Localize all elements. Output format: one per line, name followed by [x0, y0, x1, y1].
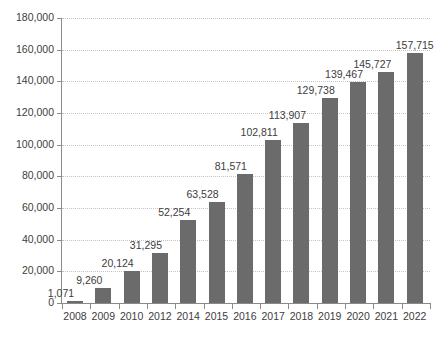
y-axis-tick [57, 208, 62, 209]
x-axis-tick [62, 304, 63, 309]
x-axis-tick [430, 304, 431, 309]
bar-value-label: 113,907 [263, 110, 311, 121]
y-axis-tick-label: 180,000 [16, 12, 54, 23]
y-axis-line [61, 18, 62, 304]
bar-value-label: 63,528 [179, 189, 227, 200]
x-axis-line [61, 303, 431, 304]
gridline [62, 50, 430, 51]
gridline [62, 81, 430, 82]
bar-value-label: 20,124 [94, 258, 142, 269]
bar [265, 140, 281, 303]
bar [209, 202, 225, 303]
y-axis-tick-label: 40,000 [22, 234, 54, 245]
y-axis-tick [57, 240, 62, 241]
bar-value-label: 52,254 [150, 207, 198, 218]
y-axis-tick [57, 176, 62, 177]
bar [152, 253, 168, 303]
bar-chart: 020,00040,00060,00080,000100,000120,0001… [0, 0, 447, 339]
y-axis-tick [57, 81, 62, 82]
bar [378, 72, 394, 303]
y-axis-tick-label: 20,000 [22, 265, 54, 276]
x-axis-tick [90, 304, 91, 309]
bar-value-label: 157,715 [391, 40, 439, 51]
gridline [62, 18, 430, 19]
y-axis-tick-label: 80,000 [22, 170, 54, 181]
bar-value-label: 81,571 [207, 161, 255, 172]
x-axis-tick [373, 304, 374, 309]
bar [407, 53, 423, 303]
y-axis-tick-label: 140,000 [16, 75, 54, 86]
x-axis-tick [204, 304, 205, 309]
bar-value-label: 139,467 [320, 69, 368, 80]
x-axis-tick [317, 304, 318, 309]
y-axis-tick-label: 160,000 [16, 44, 54, 55]
x-axis-tick-label: 2022 [397, 310, 433, 322]
x-axis-tick [402, 304, 403, 309]
bar [322, 98, 338, 303]
x-axis-tick [260, 304, 261, 309]
x-axis-tick [288, 304, 289, 309]
bar [124, 271, 140, 303]
y-axis-tick [57, 113, 62, 114]
bar-value-label: 1,071 [37, 288, 85, 299]
bar-value-label: 145,727 [348, 59, 396, 70]
y-axis-tick-label: 100,000 [16, 139, 54, 150]
x-axis-tick [175, 304, 176, 309]
gridline [62, 113, 430, 114]
x-axis-tick [345, 304, 346, 309]
y-axis-tick-label: 60,000 [22, 202, 54, 213]
bar [237, 174, 253, 303]
bar [95, 288, 111, 303]
x-axis-tick [232, 304, 233, 309]
bar-value-label: 9,260 [65, 275, 113, 286]
bar-value-label: 31,295 [122, 240, 170, 251]
bar [293, 123, 309, 303]
x-axis-tick [147, 304, 148, 309]
chart-footnote [38, 329, 438, 339]
bar [180, 220, 196, 303]
bar [350, 82, 366, 303]
x-axis-tick [119, 304, 120, 309]
bar-value-label: 129,738 [292, 85, 340, 96]
bar-value-label: 102,811 [235, 127, 283, 138]
y-axis-tick [57, 271, 62, 272]
gridline [62, 145, 430, 146]
y-axis-tick [57, 145, 62, 146]
y-axis-tick [57, 18, 62, 19]
y-axis-tick [57, 50, 62, 51]
y-axis-tick-label: 120,000 [16, 107, 54, 118]
